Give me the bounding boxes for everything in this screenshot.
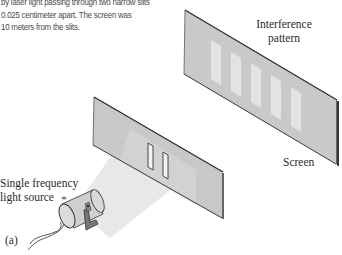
label-line: Interference (244, 17, 324, 31)
interference-pattern-label: Interference pattern (244, 17, 324, 45)
label-line: pattern (244, 31, 324, 45)
slit (148, 143, 153, 170)
panel-label: (a) (5, 233, 18, 247)
slit (163, 152, 168, 179)
screen-label: Screen (283, 155, 314, 169)
label-line: light source (0, 190, 78, 204)
light-source-label: Single frequency light source (0, 176, 78, 204)
label-line: Single frequency (0, 176, 78, 190)
